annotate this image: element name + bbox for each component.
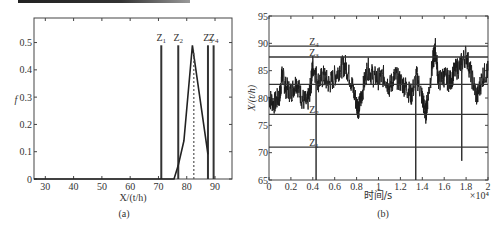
x-tick-label: 50	[97, 181, 107, 192]
chart-a-caption: (a)	[118, 208, 129, 220]
y-tick-label: 65	[258, 175, 268, 186]
y-tick-label: 0.4	[20, 64, 33, 75]
y-tick-label: 75	[258, 120, 268, 131]
x-tick-label: 0.2	[285, 181, 298, 192]
chart-a-series	[34, 45, 208, 179]
y-tick-label: 0.5	[20, 37, 33, 48]
threshold-label: Z2	[173, 32, 183, 45]
threshold-label: Z1	[156, 32, 166, 45]
signal-trace	[269, 38, 488, 124]
x-tick-label: 40	[69, 181, 79, 192]
y-tick-label: 90	[258, 38, 268, 49]
chart-a-ylabel: f	[15, 94, 19, 105]
x-tick-label: 70	[153, 181, 163, 192]
y-tick-label: 0.3	[20, 92, 33, 103]
chart-b-threshold-lines: Z4Z3Z2Z1	[269, 36, 488, 150]
chart-b-x-multiplier: ×10⁴	[470, 190, 490, 201]
x-tick-label: 80	[182, 181, 192, 192]
y-tick-label: 0	[27, 174, 32, 185]
y-tick-label: 0.2	[20, 119, 33, 130]
x-tick-label: 0.6	[328, 181, 341, 192]
x-tick-label: 30	[40, 181, 50, 192]
x-tick-label: 0.4	[307, 181, 320, 192]
y-tick-label: 95	[258, 11, 268, 22]
chart-a-xlabel: X/(t/h)	[119, 192, 146, 204]
y-tick-label: 85	[258, 65, 268, 76]
membership-curve	[34, 45, 208, 179]
chart-a-membership: 3040506070809000.10.20.30.40.5 Z1Z2Z3Z4 …	[15, 18, 232, 220]
chart-b-series	[269, 38, 488, 180]
x-tick-label: 90	[210, 181, 220, 192]
y-tick-label: 0.1	[20, 146, 33, 157]
charts-canvas: 3040506070809000.10.20.30.40.5 Z1Z2Z3Z4 …	[0, 0, 502, 234]
x-tick-label: 1.2	[394, 181, 407, 192]
y-tick-label: 80	[258, 93, 268, 104]
chart-b-timeseries: 00.20.40.60.811.21.41.61.826570758085909…	[246, 11, 491, 221]
x-tick-label: 1.6	[438, 181, 451, 192]
chart-b-caption: (b)	[377, 208, 389, 220]
y-tick-label: 70	[258, 147, 268, 158]
x-tick-label: 0.8	[350, 181, 363, 192]
chart-b-ylabel: X/(t/h)	[246, 84, 258, 112]
chart-b-axes: 00.20.40.60.811.21.41.61.826570758085909…	[258, 11, 491, 193]
x-tick-label: 60	[125, 181, 135, 192]
x-tick-label: 1.4	[416, 181, 429, 192]
chart-b-xlabel: 时间/s	[364, 189, 393, 201]
